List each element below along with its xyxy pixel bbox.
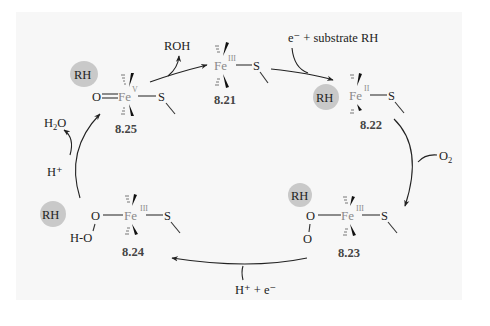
compound-label: 8.22 bbox=[360, 118, 382, 132]
substrate-label: RH bbox=[316, 91, 333, 105]
oxidation-state: III bbox=[356, 204, 364, 213]
oxygen-atom: O bbox=[303, 232, 312, 246]
reagent-h-plus: H⁺ bbox=[47, 165, 63, 179]
oxidation-state: II bbox=[364, 84, 370, 93]
oxidation-state: III bbox=[140, 204, 148, 213]
compound-label: 8.21 bbox=[214, 93, 236, 107]
reagent-proton-electron: H⁺ + e⁻ bbox=[235, 283, 276, 297]
iron-atom: Fe bbox=[118, 89, 131, 104]
oxygen-atom: O bbox=[306, 209, 315, 223]
hydroperoxo-atom: H-O bbox=[70, 231, 92, 245]
oxo-atom: O bbox=[92, 90, 101, 104]
iron-atom: Fe bbox=[214, 58, 227, 73]
sulfur-atom: S bbox=[381, 209, 388, 223]
reagent-electron-substrate: e⁻ + substrate RH bbox=[288, 31, 378, 45]
sulfur-atom: S bbox=[253, 59, 260, 73]
compound-label: 8.25 bbox=[115, 122, 137, 136]
iron-atom: Fe bbox=[349, 88, 362, 103]
compound-label: 8.24 bbox=[122, 245, 145, 259]
sulfur-atom: S bbox=[388, 89, 395, 103]
substrate-label: RH bbox=[42, 208, 59, 222]
oxidation-state: III bbox=[228, 54, 236, 63]
iron-atom: Fe bbox=[124, 208, 137, 223]
sulfur-atom: S bbox=[164, 209, 171, 223]
sulfur-atom: S bbox=[158, 90, 165, 104]
catalytic-cycle-diagram: RH O Fe V S 8.25 Fe III S bbox=[0, 0, 490, 326]
oxidation-state: V bbox=[132, 85, 138, 94]
oxygen-atom: O bbox=[91, 209, 100, 223]
diagram-panel bbox=[16, 12, 462, 300]
substrate-label: RH bbox=[74, 68, 91, 82]
substrate-label: RH bbox=[291, 189, 308, 203]
reagent-roh: ROH bbox=[164, 39, 190, 53]
iron-atom: Fe bbox=[341, 208, 354, 223]
compound-label: 8.23 bbox=[338, 246, 360, 260]
